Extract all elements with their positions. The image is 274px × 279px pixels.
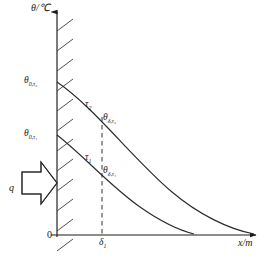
theta-subscript: 0,τ₁ [29,134,38,140]
theta-subscript: 0,τ₂ [29,81,38,87]
delta-subscript: 1 [103,243,106,249]
figure-canvas: θ/℃ x/m 0 θ0,τ₂ θ0,τ₁ δ1 τ2 τ1 θδ,τ₂ θδ,… [0,0,274,279]
y-tick-label-theta-0-tau1: θ0,τ₁ [24,129,37,139]
theta-subscript: δ,τ₁ [108,171,116,177]
y-axis-label: θ/℃ [31,3,50,13]
curve-tau1 [57,135,194,234]
heat-flux-arrow-outline [22,162,57,204]
tau-subscript: 1 [88,158,91,164]
x-tick-label-delta1: δ1 [99,238,106,248]
heat-flux-label: q [9,183,14,193]
curve-label-tau1: τ1 [85,153,91,163]
y-tick-label-theta-0-tau2: θ0,τ₂ [24,76,37,86]
theta-subscript: δ,τ₂ [108,118,116,124]
curve-value-label-theta-delta-tau2: θδ,τ₂ [103,113,116,123]
curve-label-tau2: τ2 [85,100,91,110]
tau-subscript: 2 [88,105,91,111]
heat-flux-arrow [22,162,57,204]
x-axis-label: x/m [238,238,252,248]
diagram-svg [0,0,274,279]
origin-label: 0 [47,230,52,240]
curve-value-label-theta-delta-tau1: θδ,τ₁ [103,166,116,176]
wall-hatching [57,19,73,251]
axes [51,12,256,237]
